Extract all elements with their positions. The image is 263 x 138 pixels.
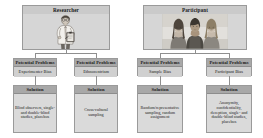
- source-box-participant: Participant: [143, 5, 247, 50]
- problem-box-ethnocentrism: Potential Problems Ethnocentrism: [74, 58, 118, 76]
- problem-header: Potential Problems: [207, 59, 251, 67]
- connector-experimenter-to-solution: [35, 76, 36, 85]
- solution-box-blind-observers: Solution Blind observers, single- and do…: [13, 85, 57, 133]
- solution-label: Cross-cultural sampling: [75, 94, 117, 132]
- source-title-researcher: Researcher: [23, 6, 109, 14]
- problem-box-sample-bias: Potential Problems Sample Bias: [137, 58, 183, 76]
- solution-header: Solution: [75, 86, 117, 94]
- solution-header: Solution: [207, 86, 251, 94]
- connector-participant-bias-to-solution: [229, 76, 230, 85]
- participants-photo: [144, 14, 246, 49]
- researcher-illustration: [23, 14, 109, 49]
- solution-box-cross-cultural-sampling: Solution Cross-cultural sampling: [74, 85, 118, 133]
- solution-label: Blind observers, single- and double-blin…: [14, 94, 56, 132]
- connector-sample-to-solution: [160, 76, 161, 85]
- source-title-participant: Participant: [144, 6, 246, 14]
- diagram-canvas: Researcher: [0, 0, 263, 138]
- problem-header: Potential Problems: [138, 59, 182, 67]
- solution-box-anonymity-confidentiality: Solution Anonymity, confidentiality, dec…: [206, 85, 252, 133]
- solution-label: Anonymity, confidentiality, deception, s…: [207, 94, 251, 132]
- problem-header: Potential Problems: [14, 59, 56, 67]
- connector-participant-bar: [160, 53, 230, 54]
- problem-header: Potential Problems: [75, 59, 117, 67]
- problem-box-participant-bias: Potential Problems Participant Bias: [206, 58, 252, 76]
- solution-header: Solution: [14, 86, 56, 94]
- connector-ethnocentrism-to-solution: [96, 76, 97, 85]
- problem-box-experimenter-bias: Potential Problems Experimenter Bias: [13, 58, 57, 76]
- solution-box-random-sampling: Solution Random/representative sampling,…: [137, 85, 183, 133]
- solution-label: Random/representative sampling, random a…: [138, 94, 182, 132]
- source-box-researcher: Researcher: [22, 5, 110, 50]
- solution-header: Solution: [138, 86, 182, 94]
- connector-researcher-bar: [35, 53, 97, 54]
